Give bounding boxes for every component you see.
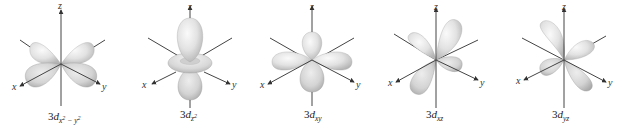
orbital-dx2-y2: z x y 3dx2 − y2 [0, 0, 124, 128]
x-axis-label: x [259, 79, 265, 90]
z-axis-label: z [433, 1, 438, 12]
dx2-y2-diagram: z x y [0, 0, 124, 128]
orbital-dxz: z x y 3dxz [370, 0, 494, 128]
y-axis-label: y [607, 77, 613, 88]
y-axis [204, 72, 230, 84]
orbital-dz2: z x y 3dz2 [124, 0, 248, 128]
y-axis-label: y [231, 79, 237, 90]
orbital-dxy: z x y 3dxy [250, 0, 374, 128]
orbital-label: 3dxz [426, 108, 443, 123]
lobe-back-left [30, 43, 61, 65]
lobe-lower-left [410, 60, 436, 94]
orbital-dyz: z x y 3dyz [494, 0, 618, 128]
x-axis-label: x [387, 77, 393, 88]
lobe-lower-right [436, 57, 462, 72]
x-axis-label: x [515, 75, 521, 86]
y-axis-label: y [355, 79, 361, 90]
x-axis [152, 72, 176, 84]
orbital-label: 3dxy [304, 108, 322, 123]
lobe-back-right [61, 43, 94, 65]
z-axis-label: z [309, 1, 314, 12]
y-axis-label: y [479, 77, 485, 88]
orbital-label: 3dyz [552, 108, 569, 123]
orbital-label: 3dx2 − y2 [48, 110, 80, 125]
z-axis-label: z [187, 1, 192, 12]
lobe-upper-left [408, 33, 436, 60]
x-axis-label: x [11, 81, 17, 92]
z-axis-label: z [561, 1, 566, 12]
z-axis-label: z [57, 0, 62, 11]
lobe-upper-right [564, 40, 594, 60]
y-axis-label: y [101, 81, 107, 92]
orbital-label: 3dz2 [180, 108, 197, 123]
x-axis-label: x [141, 79, 147, 90]
lobe-lower-right [564, 60, 592, 91]
lobe-lower-left [540, 58, 564, 75]
